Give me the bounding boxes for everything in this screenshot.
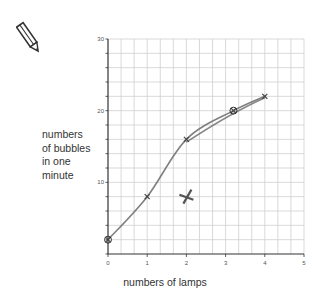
line-chart: 012345102030 [0, 0, 320, 303]
svg-text:5: 5 [302, 260, 306, 266]
svg-text:0: 0 [106, 260, 110, 266]
svg-text:20: 20 [97, 108, 104, 114]
svg-text:10: 10 [97, 179, 104, 185]
svg-text:1: 1 [146, 260, 150, 266]
svg-text:4: 4 [263, 260, 267, 266]
svg-text:3: 3 [224, 260, 228, 266]
svg-text:2: 2 [185, 260, 189, 266]
grid [108, 39, 304, 254]
svg-text:30: 30 [97, 36, 104, 42]
tick-labels: 012345102030 [97, 36, 306, 266]
annotations [105, 94, 268, 243]
axes [106, 39, 305, 257]
